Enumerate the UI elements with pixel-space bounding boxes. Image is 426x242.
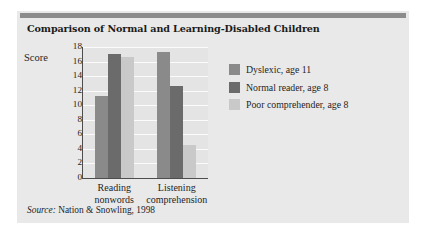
y-axis-title: Score — [24, 52, 48, 63]
legend-swatch-icon — [229, 64, 240, 75]
source-label: Source: — [27, 205, 56, 215]
y-tick-2: 2 — [62, 159, 82, 168]
card-top-rule — [20, 13, 406, 18]
legend-label: Normal reader, age 8 — [246, 82, 328, 93]
y-tick-8: 8 — [62, 115, 82, 124]
bar — [121, 57, 134, 178]
bar — [157, 52, 170, 178]
legend-label: Poor comprehender, age 8 — [246, 99, 348, 110]
x-category-label: Listeningcomprehension — [127, 182, 227, 205]
plot-area: 181614121086420 — [62, 47, 208, 180]
chart-page: Comparison of Normal and Learning-Disabl… — [0, 0, 426, 242]
x-axis-line — [82, 178, 208, 179]
source-note: Source: Nation & Snowling, 1998 — [27, 205, 155, 215]
y-tick-6: 6 — [62, 130, 82, 139]
legend-swatch-icon — [229, 82, 240, 93]
x-category-line: comprehension — [127, 194, 227, 206]
legend-label: Dyslexic, age 11 — [246, 64, 311, 75]
legend-item: Poor comprehender, age 8 — [229, 97, 348, 112]
bar — [183, 145, 196, 178]
legend-item: Dyslexic, age 11 — [229, 62, 348, 77]
gridline — [83, 91, 208, 92]
y-axis-line — [82, 47, 83, 178]
chart-legend: Dyslexic, age 11Normal reader, age 8Poor… — [229, 62, 348, 115]
gridline — [83, 47, 208, 48]
legend-item: Normal reader, age 8 — [229, 80, 348, 95]
bar — [108, 54, 121, 178]
bar — [95, 96, 108, 178]
y-tick-14: 14 — [62, 72, 82, 81]
source-citation: Nation & Snowling, 1998 — [58, 205, 155, 215]
y-tick-10: 10 — [62, 101, 82, 110]
x-category-line: Listening — [127, 182, 227, 194]
bar — [170, 86, 183, 178]
legend-swatch-icon — [229, 99, 240, 110]
gridline — [83, 62, 208, 63]
y-tick-16: 16 — [62, 57, 82, 66]
y-tick-18: 18 — [62, 42, 82, 51]
gridline — [83, 76, 208, 77]
y-tick-12: 12 — [62, 86, 82, 95]
chart-title: Comparison of Normal and Learning-Disabl… — [27, 23, 320, 34]
y-tick-4: 4 — [62, 144, 82, 153]
